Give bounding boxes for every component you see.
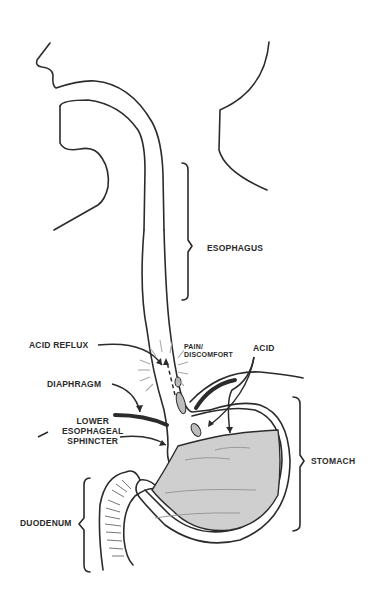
duodenum-outer [99,471,140,570]
acid-arrow-2 [228,357,254,433]
esophagus-left-wall [142,230,172,467]
esophagus-bracket [182,163,192,300]
label-acid: ACID [253,344,275,354]
head-back [219,42,269,190]
label-pain-line2: DISCOMFORT [184,351,233,359]
esophagus-right-wall [164,230,210,412]
diaphragm-arrow [112,384,140,412]
stomach-bracket [293,397,304,531]
anatomy-diagram [0,0,373,604]
label-stomach: STOMACH [311,457,355,467]
les-left-tick [38,432,48,437]
label-duodenum: DUODENUM [20,519,72,529]
label-esophagus: ESOPHAGUS [207,244,263,254]
label-acid-reflux: ACID REFLUX [29,341,88,351]
les-arrow [120,436,166,445]
label-lower-esophageal-sphincter: LOWER ESOPHAGEAL SPHINCTER [62,417,124,446]
reflux-dashed [167,362,175,395]
label-les-line3: SPHINCTER [62,437,124,447]
label-pain-line1: PAIN/ [184,343,233,351]
label-pain: PAIN/ DISCOMFORT [184,343,233,359]
duodenum-bracket [79,478,90,572]
label-diaphragm: DIAPHRAGM [47,380,101,390]
palate [60,100,145,230]
jaw [54,106,108,230]
